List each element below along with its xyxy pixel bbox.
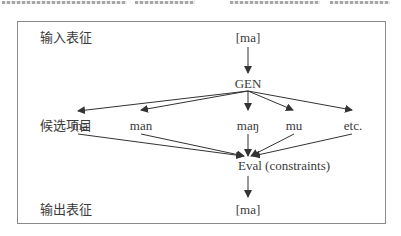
arrow-gen-to-mu [248, 91, 293, 110]
candidate-etc: etc. [344, 118, 362, 133]
output-form-node: [ma] [236, 202, 261, 217]
arrow-man-to-eval [141, 134, 244, 156]
row-label-output: 输出表征 [40, 202, 92, 217]
input-form-node: [ma] [236, 30, 261, 45]
ot-diagram: 输入表征 候选项目 输出表征 [ma] GEN ma man maŋ mu et… [0, 0, 401, 236]
row-label-input: 输入表征 [40, 30, 92, 45]
arrow-etc-to-eval [253, 134, 352, 156]
candidate-man: man [130, 118, 153, 133]
candidate-mang: maŋ [237, 118, 259, 133]
gen-node: GEN [235, 76, 262, 91]
arrow-gen-to-ma [78, 91, 248, 111]
arrow-gen-to-etc [248, 91, 352, 110]
eval-node: Eval (constraints) [238, 158, 330, 173]
arrow-mu-to-eval [251, 134, 294, 156]
arrow-ma-to-eval [78, 134, 243, 156]
candidate-ma: ma [72, 118, 88, 133]
arrow-gen-to-man [141, 91, 248, 110]
candidate-mu: mu [286, 118, 303, 133]
